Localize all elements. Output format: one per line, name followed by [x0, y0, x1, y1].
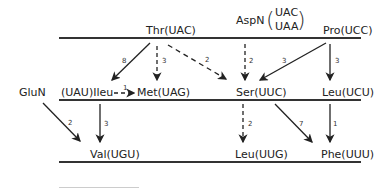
- aspn-codon-1: UAC: [275, 6, 298, 19]
- weight-thr-ileu: 8: [122, 57, 126, 65]
- weight-ileu-met: 1: [123, 84, 127, 92]
- weight-ileu-val: 3: [104, 120, 108, 128]
- node-phe: Phe(UUU): [321, 148, 374, 161]
- weight-aspn-ser: 2: [249, 57, 253, 65]
- weight-pro-leu: 3: [335, 57, 339, 65]
- aspn-close-paren: ): [297, 9, 306, 31]
- weight-ser-leuuug: 2: [248, 120, 252, 128]
- edge-glun-val: [43, 103, 80, 141]
- weight-pro-ser: 3: [282, 57, 286, 65]
- node-leu-ucu: Leu(UCU): [322, 86, 374, 99]
- node-glun: GluN: [19, 86, 46, 99]
- weight-thr-ser: 2: [205, 56, 209, 64]
- weight-leu-phe: 1: [333, 120, 337, 128]
- edge-thr-ser: [168, 45, 226, 79]
- edge-thr-ileu: [112, 43, 150, 80]
- node-ileu: (UAU)Ileu: [61, 86, 113, 99]
- node-thr: Thr(UAC): [146, 24, 196, 37]
- weight-glun-val: 2: [68, 119, 72, 127]
- node-aspn: AspN: [236, 14, 264, 27]
- weight-thr-met: 3: [162, 57, 166, 65]
- edge-ser-phe: [275, 104, 312, 142]
- aspn-open-paren: (: [266, 9, 275, 31]
- node-val: Val(UGU): [90, 148, 140, 161]
- aspn-codon-2: UAA: [275, 20, 298, 33]
- node-met: Met(UAG): [137, 86, 190, 99]
- node-leu-uug: Leu(UUG): [235, 148, 288, 161]
- weight-ser-phe: 7: [299, 120, 303, 128]
- node-pro: Pro(UCC): [323, 24, 372, 37]
- node-ser: Ser(UUC): [236, 86, 287, 99]
- edge-pro-ser: [260, 43, 326, 80]
